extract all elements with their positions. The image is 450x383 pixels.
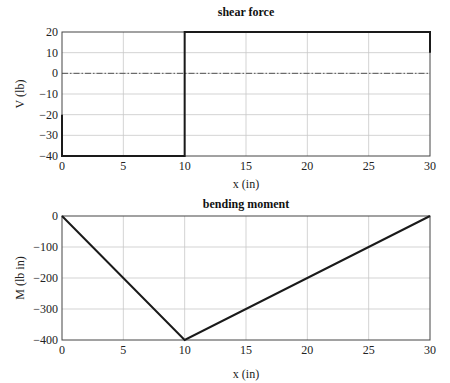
x-axis-label: x (in) xyxy=(233,177,259,191)
y-tick-label: −20 xyxy=(39,108,58,122)
x-tick-label: 10 xyxy=(179,159,191,173)
y-tick-label: −200 xyxy=(33,271,58,285)
x-tick-label: 25 xyxy=(363,159,375,173)
y-tick-label: 20 xyxy=(46,25,58,39)
y-axis-label: M (lb in) xyxy=(13,256,27,299)
x-tick-label: 5 xyxy=(120,343,126,357)
y-tick-label: 0 xyxy=(52,66,58,80)
x-tick-label: 0 xyxy=(59,159,65,173)
x-tick-label: 10 xyxy=(179,343,191,357)
y-tick-label: −40 xyxy=(39,149,58,163)
y-tick-label: −100 xyxy=(33,240,58,254)
figure: 05101520253020100−10−20−30−40shear force… xyxy=(0,0,450,383)
x-tick-label: 20 xyxy=(301,343,313,357)
bending-moment-plot: 0510152025300−100−200−300−400bending mom… xyxy=(13,197,436,381)
y-tick-label: −10 xyxy=(39,87,58,101)
chart-title: shear force xyxy=(218,5,275,19)
x-tick-label: 5 xyxy=(120,159,126,173)
x-tick-label: 25 xyxy=(363,343,375,357)
y-axis-label: V (lb) xyxy=(13,80,27,109)
y-tick-label: 10 xyxy=(46,46,58,60)
y-tick-label: 0 xyxy=(52,209,58,223)
y-tick-label: −400 xyxy=(33,333,58,347)
x-tick-label: 30 xyxy=(424,159,436,173)
chart-title: bending moment xyxy=(203,197,289,211)
x-tick-label: 20 xyxy=(301,159,313,173)
x-tick-label: 0 xyxy=(59,343,65,357)
x-tick-label: 15 xyxy=(240,343,252,357)
x-tick-label: 30 xyxy=(424,343,436,357)
shear-force-plot: 05101520253020100−10−20−30−40shear force… xyxy=(13,5,436,191)
x-tick-label: 15 xyxy=(240,159,252,173)
y-tick-label: −300 xyxy=(33,302,58,316)
x-axis-label: x (in) xyxy=(233,367,259,381)
y-tick-label: −30 xyxy=(39,128,58,142)
